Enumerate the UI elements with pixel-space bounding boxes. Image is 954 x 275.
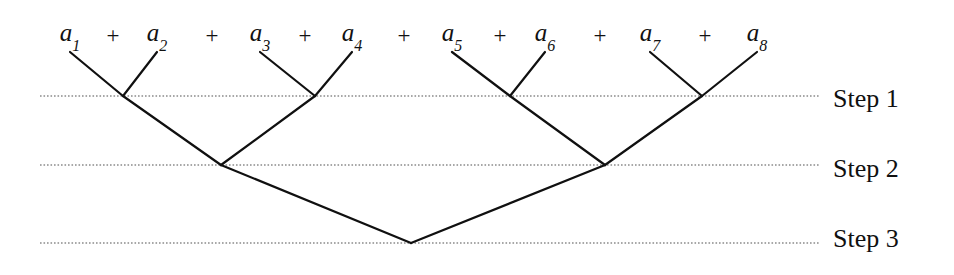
term-a5-subscript: 5: [454, 37, 462, 54]
term-a4-subscript: 4: [354, 37, 362, 54]
step-guide-lines: [40, 96, 820, 243]
term-a7: a7: [640, 20, 661, 50]
edge-a1-to-node1: [70, 52, 123, 96]
edge-node2-to-node5: [221, 96, 315, 165]
edge-a6-to-node3: [510, 52, 545, 96]
plus-operator-1: +: [107, 24, 120, 47]
term-a7-subscript: 7: [652, 37, 660, 54]
term-a8: a8: [747, 20, 768, 50]
edge-a7-to-node4: [650, 52, 702, 96]
edge-a3-to-node2: [260, 52, 315, 96]
tree-edges: [70, 52, 757, 243]
term-a1-subscript: 1: [72, 37, 80, 54]
plus-operator-2: +: [206, 24, 219, 47]
term-a6-base: a: [535, 19, 548, 46]
term-a2: a2: [147, 20, 168, 50]
figure-canvas: a1 + a2 + a3 + a4 + a5 + a6 + a7 + a8 St…: [0, 0, 954, 275]
term-a2-base: a: [147, 19, 160, 46]
term-a8-subscript: 8: [759, 37, 767, 54]
edge-node4-to-node6: [605, 96, 702, 165]
term-a7-base: a: [640, 19, 653, 46]
edge-a5-to-node3: [452, 52, 510, 96]
step-label-1: Step 1: [833, 86, 899, 112]
term-a3-subscript: 3: [262, 37, 270, 54]
edge-node1-to-node5: [123, 96, 221, 165]
plus-operator-7: +: [699, 24, 712, 47]
reduction-tree-graphic: [0, 0, 954, 275]
term-a4-base: a: [342, 19, 355, 46]
term-a3: a3: [250, 20, 271, 50]
plus-operator-6: +: [594, 24, 607, 47]
term-a6: a6: [535, 20, 556, 50]
edge-a8-to-node4: [702, 52, 757, 96]
term-a3-base: a: [250, 19, 263, 46]
edge-a2-to-node1: [123, 52, 157, 96]
term-a1-base: a: [60, 19, 73, 46]
edge-a4-to-node2: [315, 52, 352, 96]
term-a5-base: a: [442, 19, 455, 46]
edge-node3-to-node6: [510, 96, 605, 165]
step-label-3: Step 3: [833, 226, 899, 252]
term-a4: a4: [342, 20, 363, 50]
edge-node6-to-root: [411, 165, 605, 243]
plus-operator-3: +: [299, 24, 312, 47]
term-a6-subscript: 6: [547, 37, 555, 54]
plus-operator-5: +: [494, 24, 507, 47]
term-a2-subscript: 2: [159, 37, 167, 54]
edge-node5-to-root: [221, 165, 411, 243]
term-a1: a1: [60, 20, 81, 50]
plus-operator-4: +: [398, 24, 411, 47]
term-a8-base: a: [747, 19, 760, 46]
term-a5: a5: [442, 20, 463, 50]
step-label-2: Step 2: [833, 156, 899, 182]
